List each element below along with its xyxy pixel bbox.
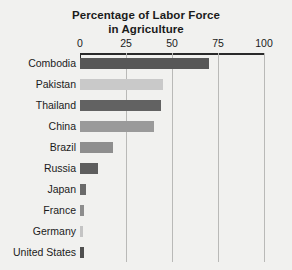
x-tick-label-0: 0 [77,37,83,49]
bar-united-states [80,247,84,258]
bar-russia [80,163,98,174]
category-label-holder: Thailand [0,97,76,118]
category-label-combodia: Combodia [28,57,76,69]
bar-row [80,137,264,158]
category-label-holder: Japan [0,181,76,202]
x-tick-label-50: 50 [166,37,178,49]
gridline-100 [264,53,265,262]
chart-title: Percentage of Labor Force in Agriculture [0,8,292,36]
bar-china [80,121,154,132]
category-label-thailand: Thailand [36,99,76,111]
x-tick-label-25: 25 [120,37,132,49]
bar-brazil [80,142,113,153]
bar-chart-figure: Percentage of Labor Force in Agriculture… [0,0,292,270]
plot-area: 0255075100 [80,53,264,262]
category-label-france: France [43,204,76,216]
category-label-germany: Germany [33,225,76,237]
chart-title-line-2: in Agriculture [0,22,292,36]
bar-row [80,53,264,74]
category-label-holder: France [0,202,76,223]
bar-row [80,74,264,95]
chart-title-line-1: Percentage of Labor Force [72,9,220,21]
category-label-united-states: United States [13,246,76,258]
bar-row [80,95,264,116]
bar-japan [80,184,86,195]
bar-row [80,242,264,263]
bar-france [80,205,84,216]
bar-row [80,179,264,200]
category-label-holder: China [0,118,76,139]
bar-row [80,158,264,179]
category-label-holder: Brazil [0,139,76,160]
category-label-holder: Combodia [0,55,76,76]
category-label-holder: Russia [0,160,76,181]
category-label-holder: United States [0,244,76,265]
x-tick-label-100: 100 [255,37,273,49]
category-label-holder: Germany [0,223,76,244]
x-tick-label-75: 75 [212,37,224,49]
category-label-russia: Russia [44,162,76,174]
category-label-brazil: Brazil [50,141,76,153]
category-label-china: China [49,120,76,132]
bar-germany [80,226,83,237]
bar-thailand [80,100,161,111]
bar-row [80,200,264,221]
category-label-japan: Japan [47,183,76,195]
category-label-holder: Pakistan [0,76,76,97]
bar-combodia [80,58,209,69]
bar-row [80,221,264,242]
bar-row [80,116,264,137]
bar-pakistan [80,79,163,90]
category-label-pakistan: Pakistan [36,78,76,90]
